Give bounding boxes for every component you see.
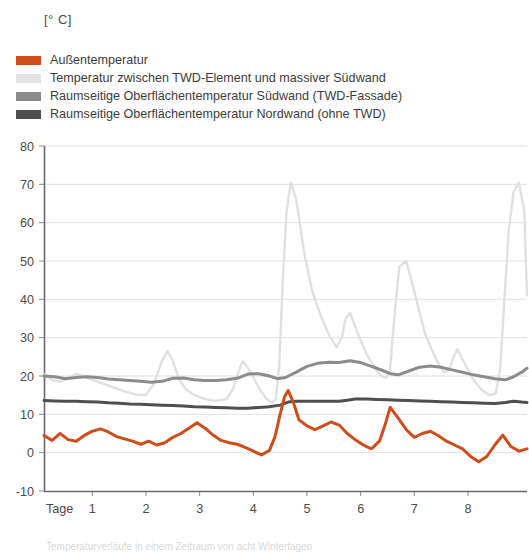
svg-text:10: 10 xyxy=(20,408,34,422)
svg-text:2: 2 xyxy=(142,502,149,516)
svg-text:-10: -10 xyxy=(16,485,34,499)
data-series-group xyxy=(44,182,527,461)
y-axis-tick-labels: 80706050403020100-10 xyxy=(16,140,34,499)
svg-text:30: 30 xyxy=(20,331,34,345)
svg-text:5: 5 xyxy=(303,502,310,516)
svg-text:6: 6 xyxy=(357,502,364,516)
svg-text:20: 20 xyxy=(20,370,34,384)
x-axis-tick-labels: 12345678 xyxy=(89,502,472,516)
svg-text:50: 50 xyxy=(20,255,34,269)
temperature-line-chart: 80706050403020100-10 12345678 Tage xyxy=(0,0,529,552)
svg-text:70: 70 xyxy=(20,178,34,192)
svg-text:0: 0 xyxy=(27,446,34,460)
figure-caption: Temperaturverläufe in einem Zeitraum von… xyxy=(46,541,516,552)
svg-text:40: 40 xyxy=(20,293,34,307)
svg-text:4: 4 xyxy=(250,502,257,516)
svg-text:3: 3 xyxy=(196,502,203,516)
series-line-2 xyxy=(44,361,527,382)
chart-plot-area: 80706050403020100-10 12345678 Tage xyxy=(0,0,529,552)
series-line-3 xyxy=(44,399,527,408)
svg-text:8: 8 xyxy=(464,502,471,516)
svg-text:80: 80 xyxy=(20,140,34,154)
x-axis-title: Tage xyxy=(46,502,73,516)
svg-text:1: 1 xyxy=(89,502,96,516)
gridlines xyxy=(39,146,527,491)
svg-text:7: 7 xyxy=(411,502,418,516)
svg-text:60: 60 xyxy=(20,216,34,230)
